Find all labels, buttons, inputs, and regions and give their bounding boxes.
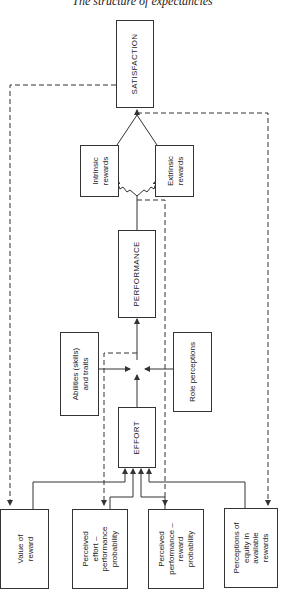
performance-box: PERFORMANCE	[118, 230, 156, 318]
perceived-effort-performance-label: Perceived effort – performance probabili…	[81, 527, 119, 572]
perceptions-of-equity-label: Perceptions of equity in available rewar…	[232, 522, 270, 573]
performance-label: PERFORMANCE	[132, 241, 142, 307]
perceptions-of-equity-box: Perceptions of equity in available rewar…	[224, 508, 278, 588]
role-perceptions-box: Role perceptions	[173, 332, 212, 412]
extrinsic-rewards-box: Extrinsic rewards	[155, 145, 194, 197]
value-of-reward-box: Value of reward	[0, 509, 49, 589]
effort-box: EFFORT	[118, 407, 156, 468]
abilities-label: Abilities (skills) and traits	[70, 348, 89, 400]
perceived-effort-performance-box: Perceived effort – performance probabili…	[72, 509, 128, 589]
perceived-performance-reward-label: Perceived performance – reward probabili…	[157, 523, 195, 575]
satisfaction-label: SATISFACTION	[130, 34, 140, 95]
extrinsic-rewards-label: Extrinsic rewards	[165, 156, 184, 186]
effort-label: EFFORT	[132, 421, 142, 455]
intrinsic-rewards-label: Intrinsic rewards	[90, 157, 109, 185]
value-of-reward-label: Value of reward	[15, 535, 34, 564]
perceived-performance-reward-box: Perceived performance – reward probabili…	[148, 509, 204, 589]
role-perceptions-label: Role perceptions	[188, 342, 198, 402]
satisfaction-box: SATISFACTION	[116, 20, 154, 108]
abilities-box: Abilities (skills) and traits	[60, 332, 99, 416]
intrinsic-rewards-box: Intrinsic rewards	[80, 145, 119, 197]
